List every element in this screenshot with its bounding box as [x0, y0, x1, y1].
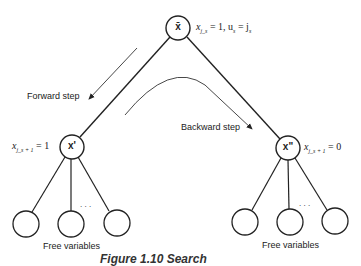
root-node-label: x̄: [166, 21, 190, 32]
leaf-node: [277, 209, 303, 235]
forward-arrow: [89, 48, 137, 99]
figure-caption: Figure 1.10 Search: [100, 252, 207, 266]
right-node-label: x": [276, 141, 300, 152]
leaf-node: [13, 211, 39, 237]
leaf-node: [58, 211, 84, 237]
root-annotation: xj_s = 1, us = js: [196, 21, 251, 34]
left-ellipsis: . . .: [80, 200, 91, 209]
forward-step-label: Forward step: [27, 91, 80, 101]
left-annotation: xj_s + 1 = 1: [12, 140, 49, 153]
right-annotation: xj_s + 1 = 0: [304, 141, 341, 154]
left-free-variables-label: Free variables: [43, 241, 100, 251]
right-free-variables-label: Free variables: [262, 240, 319, 250]
leaf-node: [104, 210, 130, 236]
right-ellipsis: . . .: [299, 199, 310, 208]
edge-root-left: [80, 37, 170, 137]
backward-step-label: Backward step: [181, 122, 240, 132]
left-node-label: x': [60, 140, 84, 151]
leaf-node: [322, 208, 348, 234]
leaf-node: [232, 209, 258, 235]
